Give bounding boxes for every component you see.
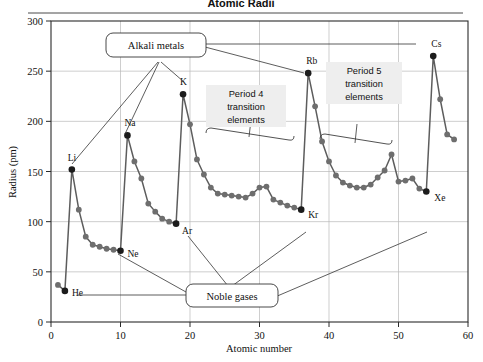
data-point: [410, 176, 416, 182]
data-point: [396, 179, 402, 185]
data-point: [152, 209, 158, 215]
figure-title: Atomic Radii: [207, 0, 274, 9]
x-tick-label: 40: [324, 330, 335, 341]
data-point: [194, 157, 200, 163]
data-point: [312, 103, 318, 109]
data-point: [347, 183, 353, 189]
data-point: [69, 166, 76, 173]
data-point: [132, 159, 138, 165]
data-point: [271, 197, 277, 203]
data-point: [444, 131, 450, 137]
data-point: [291, 205, 297, 211]
element-label-rb: Rb: [306, 56, 317, 66]
data-point: [62, 288, 69, 295]
element-label-kr: Kr: [308, 210, 319, 220]
data-point: [166, 219, 172, 225]
data-point: [173, 220, 180, 227]
period-4-line-1: Period 4: [229, 89, 264, 99]
period-5-line-2: transition: [345, 79, 383, 89]
data-point: [403, 178, 409, 184]
data-point: [389, 152, 395, 158]
data-point: [257, 185, 263, 191]
data-point: [437, 96, 443, 102]
data-point: [361, 185, 367, 191]
data-point: [236, 194, 242, 200]
data-point: [430, 53, 437, 60]
data-point: [264, 184, 270, 190]
noble-gases-label: Noble gases: [206, 291, 257, 302]
data-point: [423, 188, 430, 195]
data-point: [111, 247, 117, 253]
data-point: [277, 200, 283, 206]
data-point: [97, 244, 103, 250]
data-point: [340, 180, 346, 186]
x-tick-label: 50: [393, 330, 404, 341]
data-point: [159, 216, 165, 222]
data-point: [451, 136, 457, 142]
element-label-cs: Cs: [431, 39, 441, 49]
alkali-metals-label: Alkali metals: [128, 40, 184, 51]
y-tick-label: 150: [27, 167, 43, 178]
data-point: [284, 203, 290, 209]
period-5-line-1: Period 5: [347, 66, 382, 76]
data-point: [319, 139, 325, 145]
noble-gases-callout: Noble gases: [186, 284, 278, 307]
y-tick-label: 300: [27, 16, 43, 27]
data-point: [104, 246, 110, 252]
y-tick-label: 100: [27, 217, 43, 228]
element-label-li: Li: [68, 153, 77, 163]
element-label-k: K: [180, 77, 187, 87]
data-point: [117, 247, 124, 254]
x-tick-label: 10: [115, 330, 126, 341]
y-tick-label: 250: [27, 66, 43, 77]
data-point: [222, 192, 228, 198]
element-label-he: He: [72, 288, 83, 298]
element-label-ar: Ar: [182, 226, 193, 236]
x-tick-label: 20: [185, 330, 196, 341]
y-axis-title: Radius (pm): [7, 145, 19, 198]
element-label-xe: Xe: [434, 193, 445, 203]
data-point: [333, 173, 339, 179]
alkali-metals-callout: Alkali metals: [106, 33, 206, 57]
data-point: [187, 121, 193, 127]
data-point: [55, 282, 61, 288]
data-point: [90, 242, 96, 248]
y-tick-label: 200: [27, 116, 43, 127]
data-point: [76, 207, 82, 213]
data-point: [138, 176, 144, 182]
atomic-radii-figure: Atomic Radii 050100150200250300 01020304…: [0, 0, 483, 362]
y-tick-label: 0: [38, 317, 43, 328]
data-point: [382, 168, 388, 174]
y-tick-label: 50: [33, 267, 44, 278]
data-point: [229, 193, 235, 199]
data-point: [215, 191, 221, 197]
element-label-ne: Ne: [128, 249, 139, 259]
data-point: [416, 186, 422, 192]
x-tick-label: 0: [48, 330, 53, 341]
period-4-transition-callout: Period 4 transition elements: [206, 85, 286, 127]
figure-background: [0, 0, 483, 362]
period-5-transition-callout: Period 5 transition elements: [326, 62, 402, 104]
x-tick-label: 30: [254, 330, 265, 341]
data-point: [145, 201, 151, 207]
period-4-line-2: transition: [227, 102, 265, 112]
period-4-line-3: elements: [227, 115, 265, 125]
data-point: [208, 185, 214, 191]
data-point: [243, 195, 249, 201]
data-point: [354, 185, 360, 191]
data-point: [250, 191, 256, 197]
period-5-line-3: elements: [345, 92, 383, 102]
data-point: [305, 70, 312, 77]
data-point: [375, 175, 381, 181]
data-point: [201, 172, 207, 178]
data-point: [368, 182, 374, 188]
data-point: [83, 234, 89, 240]
data-point: [326, 159, 332, 165]
data-point: [298, 206, 305, 213]
data-point: [180, 91, 187, 98]
x-tick-label: 60: [463, 330, 474, 341]
x-axis-title: Atomic number: [226, 343, 293, 354]
